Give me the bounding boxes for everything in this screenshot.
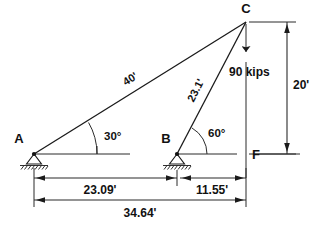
dimension-23-09 xyxy=(34,175,177,181)
dimension-label-11-55: 11.55' xyxy=(196,183,228,197)
member-label-bc: 23.1' xyxy=(185,76,207,103)
truss-diagram: A B C F 30° 60° 40' 23.1' 90 kips 20' 23… xyxy=(0,0,314,226)
dimension-label-23-09: 23.09' xyxy=(84,183,117,197)
angle-label-b: 60° xyxy=(208,127,226,139)
dimension-label-vertical-20: 20' xyxy=(293,78,309,92)
load-label: 90 kips xyxy=(229,65,270,79)
angle-arc-a xyxy=(89,123,97,155)
truss-diagram-canvas: A B C F 30° 60° 40' 23.1' 90 kips 20' 23… xyxy=(0,0,314,226)
angle-label-a: 30° xyxy=(104,130,122,142)
support-pin-b xyxy=(163,152,191,170)
dimension-11-55 xyxy=(180,175,246,181)
support-pin-a xyxy=(20,152,48,170)
dimension-vertical-20 xyxy=(249,22,296,154)
node-label-c: C xyxy=(241,1,251,16)
member-label-ac: 40' xyxy=(120,69,139,87)
hatching-b xyxy=(164,166,191,170)
node-label-b: B xyxy=(161,131,170,146)
angle-arc-b xyxy=(192,128,207,154)
dimension-34-64 xyxy=(34,197,246,203)
node-label-a: A xyxy=(14,131,24,146)
dimension-label-34-64: 34.64' xyxy=(124,206,157,220)
node-label-f: F xyxy=(252,147,260,162)
